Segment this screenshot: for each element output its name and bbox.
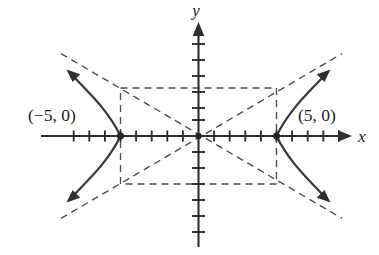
y-axis-arrowhead xyxy=(193,22,205,36)
tick-marks-group xyxy=(74,44,339,232)
x-axis-label: x xyxy=(357,127,366,146)
right-vertex-label: (5, 0) xyxy=(298,105,336,125)
vertex-dot-right xyxy=(273,133,280,140)
hyperbola-figure: y x (−5, 0) (5, 0) xyxy=(0,0,379,255)
x-axis-arrowhead xyxy=(338,130,352,142)
left-vertex-label: (−5, 0) xyxy=(28,105,76,125)
y-axis-label: y xyxy=(190,1,200,20)
vertex-dot-left xyxy=(117,133,124,140)
graph-canvas: y x (−5, 0) (5, 0) xyxy=(0,0,379,255)
origin-dot xyxy=(195,133,201,139)
